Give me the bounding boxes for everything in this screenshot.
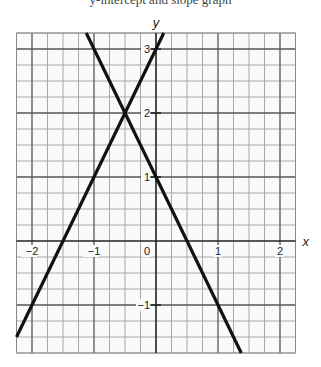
y-tick-label: 3 — [144, 43, 150, 55]
x-tick-label: −2 — [26, 245, 39, 257]
x-tick-label: 1 — [215, 245, 221, 257]
y-tick-label: 2 — [144, 107, 150, 119]
x-tick-label: 2 — [277, 245, 283, 257]
y-tick-label: 1 — [144, 171, 150, 183]
x-tick-label: −1 — [88, 245, 101, 257]
line-graph: −2−1012−1123xy — [0, 0, 321, 367]
x-axis-label: x — [302, 234, 310, 249]
y-axis-label: y — [152, 15, 161, 30]
x-tick-label: 0 — [144, 245, 150, 257]
y-tick-label: −1 — [137, 299, 150, 311]
